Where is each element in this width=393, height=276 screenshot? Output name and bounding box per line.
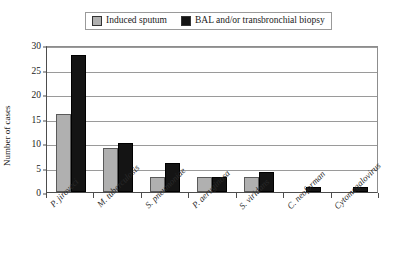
plot-area: 051015202530: [46, 46, 378, 193]
y-axis-tick-label: 30: [32, 42, 42, 52]
y-axis-tick-label: 15: [32, 116, 42, 126]
bar: [71, 55, 86, 192]
y-axis-title: Number of cases: [2, 86, 16, 186]
legend-swatch-icon: [92, 16, 102, 26]
bar-chart: Induced sputum BAL and/or transbronchial…: [0, 0, 393, 276]
legend-item-bal-transbronchial-biopsy: BAL and/or transbronchial biopsy: [181, 16, 325, 26]
y-axis-tick-label: 5: [36, 165, 41, 175]
legend-item-induced-sputum: Induced sputum: [92, 16, 167, 26]
y-axis-tick-label: 25: [32, 67, 42, 77]
chart-legend: Induced sputum BAL and/or transbronchial…: [85, 12, 332, 30]
bar-group: [188, 47, 235, 192]
legend-label: BAL and/or transbronchial biopsy: [195, 16, 325, 26]
y-axis-tick-label: 20: [32, 91, 42, 101]
legend-label: Induced sputum: [106, 16, 167, 26]
y-axis-tick-label: 10: [32, 140, 42, 150]
legend-swatch-icon: [181, 16, 191, 26]
bar-groups: [47, 47, 377, 192]
x-axis-labels: P. jiroveciM. tuberculosisS. pneumoniaeP…: [0, 198, 393, 276]
bar-group: [236, 47, 283, 192]
bar-group: [47, 47, 94, 192]
